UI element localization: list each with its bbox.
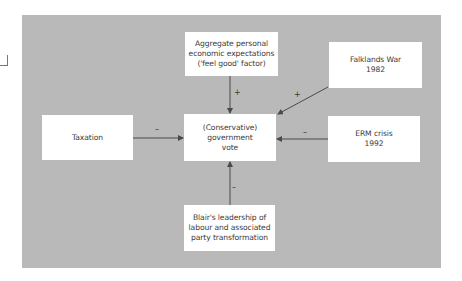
sign-taxation-edge: – xyxy=(155,126,159,134)
sign-erm-edge: – xyxy=(303,129,307,137)
arrow-falklands-to-center xyxy=(278,87,328,114)
sign-falklands-edge: + xyxy=(294,91,301,99)
node-blair-leadership: Blair's leadership of labour and associa… xyxy=(184,205,275,251)
node-erm-crisis: ERM crisis 1992 xyxy=(328,116,420,162)
node-feel-good-line-1: Aggregate personal xyxy=(195,39,268,49)
node-blair-line-1: Blair's leadership of xyxy=(193,213,266,223)
node-erm-line-1: ERM crisis xyxy=(355,129,392,139)
node-feel-good-line-2: economic expectations xyxy=(189,49,275,59)
node-taxation-line-1: Taxation xyxy=(72,133,103,143)
node-center-line-3: vote xyxy=(222,143,238,153)
node-blair-line-2: labour and associated xyxy=(189,223,271,233)
sign-blair-edge: – xyxy=(232,184,236,192)
node-erm-line-2: 1992 xyxy=(365,139,384,149)
node-taxation: Taxation xyxy=(42,115,133,160)
node-center-line-2: government xyxy=(207,133,252,143)
node-blair-line-3: party transformation xyxy=(191,233,268,243)
node-falklands-war: Falklands War 1982 xyxy=(329,42,422,88)
node-falklands-line-2: 1982 xyxy=(366,65,385,75)
node-center-line-1: (Conservative) xyxy=(203,123,257,133)
node-falklands-line-1: Falklands War xyxy=(350,55,401,65)
node-feel-good-factor: Aggregate personal economic expectations… xyxy=(185,32,278,76)
node-government-vote: (Conservative) government vote xyxy=(184,114,276,161)
sign-top-edge: + xyxy=(234,89,241,97)
node-feel-good-line-3: ('feel good' factor) xyxy=(197,59,265,69)
